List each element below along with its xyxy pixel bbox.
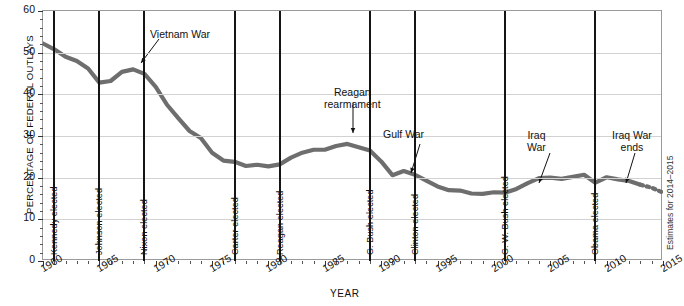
y-minor-tick xyxy=(40,61,43,62)
y-tick-mark xyxy=(38,11,43,12)
data-series-estimate-dashed xyxy=(640,185,663,193)
annotation-gulf-war: Gulf War xyxy=(383,128,424,140)
y-tick-label: 50 xyxy=(9,45,35,57)
x-minor-tick xyxy=(539,261,540,264)
x-minor-tick xyxy=(133,261,134,264)
x-minor-tick xyxy=(629,261,630,264)
annotation-reagan-rearmament: Reagan rearmament xyxy=(324,86,381,110)
gridline-horizontal xyxy=(43,219,661,220)
event-label-g-bush-elected: G. Bush elected xyxy=(365,189,375,255)
x-minor-tick xyxy=(314,261,315,264)
event-label-kennedy-elected: Kennedy elected xyxy=(49,186,59,255)
y-tick-label: 20 xyxy=(9,170,35,182)
y-minor-tick xyxy=(40,144,43,145)
x-minor-tick xyxy=(584,261,585,264)
y-minor-tick xyxy=(40,153,43,154)
y-minor-tick xyxy=(40,44,43,45)
x-minor-tick xyxy=(528,261,529,264)
x-minor-tick xyxy=(347,261,348,264)
x-minor-tick xyxy=(595,261,596,264)
y-minor-tick xyxy=(40,111,43,112)
event-label-reagan-elected: Reagan elected xyxy=(275,191,285,255)
gridline-horizontal xyxy=(43,53,661,54)
event-label-nixon-elected: Nixon elected xyxy=(139,199,149,255)
y-tick-mark xyxy=(38,136,43,137)
annotation-vietnam-war: Vietnam War xyxy=(150,28,210,40)
x-minor-tick xyxy=(88,261,89,264)
x-minor-tick xyxy=(426,261,427,264)
y-minor-tick xyxy=(40,236,43,237)
y-minor-tick xyxy=(40,36,43,37)
y-tick-mark xyxy=(38,53,43,54)
x-minor-tick xyxy=(246,261,247,264)
x-minor-tick xyxy=(257,261,258,264)
x-minor-tick xyxy=(291,261,292,264)
x-minor-tick xyxy=(404,261,405,264)
x-minor-tick xyxy=(652,261,653,264)
y-minor-tick xyxy=(40,253,43,254)
event-label-clinton-elected: Clinton elected xyxy=(410,194,420,255)
x-minor-tick xyxy=(573,261,574,264)
x-minor-tick xyxy=(359,261,360,264)
event-label-carter-elected: Carter elected xyxy=(230,197,240,255)
data-series-line xyxy=(43,44,640,194)
x-minor-tick xyxy=(640,261,641,264)
y-tick-label: 40 xyxy=(9,86,35,98)
x-axis-title: YEAR xyxy=(330,288,360,299)
y-tick-label: 30 xyxy=(9,128,35,140)
y-minor-tick xyxy=(40,169,43,170)
x-minor-tick xyxy=(471,261,472,264)
x-minor-tick xyxy=(144,261,145,264)
y-minor-tick xyxy=(40,119,43,120)
y-minor-tick xyxy=(40,19,43,20)
y-minor-tick xyxy=(40,78,43,79)
x-minor-tick xyxy=(460,261,461,264)
x-minor-tick xyxy=(415,261,416,264)
y-tick-label: 0 xyxy=(9,253,35,265)
plot-area xyxy=(42,10,662,260)
y-tick-label: 10 xyxy=(9,211,35,223)
y-minor-tick xyxy=(40,86,43,87)
x-minor-tick xyxy=(201,261,202,264)
y-tick-mark xyxy=(38,178,43,179)
y-minor-tick xyxy=(40,69,43,70)
y-tick-mark xyxy=(38,94,43,95)
x-minor-tick xyxy=(122,261,123,264)
y-tick-mark xyxy=(38,219,43,220)
y-minor-tick xyxy=(40,211,43,212)
estimates-note: Estimates for 2014–2015 xyxy=(665,155,675,250)
y-minor-tick xyxy=(40,194,43,195)
y-minor-tick xyxy=(40,161,43,162)
x-minor-tick xyxy=(77,261,78,264)
y-minor-tick xyxy=(40,228,43,229)
x-minor-tick xyxy=(178,261,179,264)
y-minor-tick xyxy=(40,244,43,245)
y-minor-tick xyxy=(40,128,43,129)
event-label-g-w-bush-elected: G. W. Bush elected xyxy=(500,176,510,255)
event-label-obama-elected: Obama elected xyxy=(590,193,600,255)
event-label-johnson-elected: Johnson elected xyxy=(94,188,104,255)
x-minor-tick xyxy=(516,261,517,264)
y-minor-tick xyxy=(40,28,43,29)
y-minor-tick xyxy=(40,203,43,204)
x-minor-tick xyxy=(66,261,67,264)
annotation-iraq-war: Iraq War xyxy=(527,129,546,153)
x-minor-tick xyxy=(235,261,236,264)
gridline-horizontal xyxy=(43,178,661,179)
y-minor-tick xyxy=(40,103,43,104)
annotation-iraq-war-ends: Iraq War ends xyxy=(612,129,652,153)
gridline-horizontal xyxy=(43,136,661,137)
y-tick-label: 60 xyxy=(9,3,35,15)
x-minor-tick xyxy=(190,261,191,264)
x-minor-tick xyxy=(483,261,484,264)
x-minor-tick xyxy=(302,261,303,264)
x-minor-tick xyxy=(370,261,371,264)
y-minor-tick xyxy=(40,186,43,187)
